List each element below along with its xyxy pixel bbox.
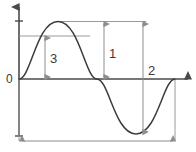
dimension-2-label: 2 xyxy=(148,63,155,78)
dimension-3-label: 3 xyxy=(50,51,57,66)
labels-layer: 0 3 1 2 xyxy=(0,0,196,152)
origin-label: 0 xyxy=(6,72,13,86)
sine-wave-diagram: 0 3 1 2 xyxy=(0,0,196,152)
dimension-1-label: 1 xyxy=(109,46,116,61)
